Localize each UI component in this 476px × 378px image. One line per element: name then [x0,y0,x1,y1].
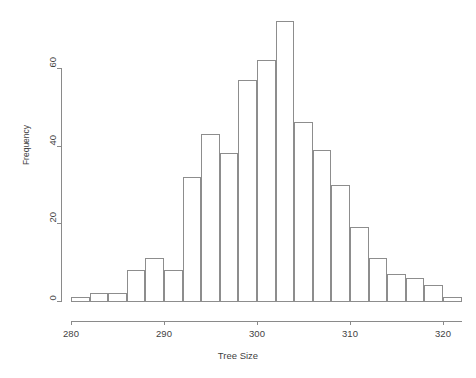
y-axis-title: Frequency [21,125,31,165]
histogram-bar [220,153,239,301]
bars-layer [0,0,476,378]
histogram-bar [294,122,313,301]
histogram-bar [164,270,183,301]
histogram-bar [369,258,388,301]
histogram-bar [127,270,146,301]
histogram-bar [238,80,257,301]
x-axis-title: Tree Size [0,350,476,361]
histogram-bar [350,227,369,301]
bars-baseline [71,301,462,302]
histogram-bar [108,293,127,301]
histogram-bar [257,60,276,301]
histogram-bar [406,278,425,301]
histogram-bar [313,150,332,301]
histogram-bar [201,134,220,301]
histogram-bar [387,274,406,301]
histogram-bar [183,177,202,301]
histogram-bar [331,185,350,302]
histogram-bar [424,285,443,301]
histogram-bar [276,21,295,301]
histogram-plot: 0204060280290300310320 Frequency Tree Si… [0,0,476,378]
histogram-bar [145,258,164,301]
histogram-bar [90,293,109,301]
